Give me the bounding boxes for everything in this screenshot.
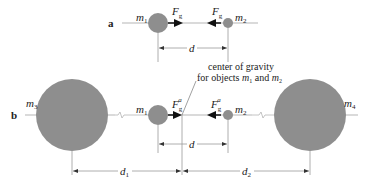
label-force-2: Fg: [211, 5, 223, 20]
mass-m1: [148, 105, 168, 125]
label-force-1: Fga: [171, 96, 183, 113]
label-m2: m2: [235, 103, 247, 117]
panel-a-label: a: [108, 17, 114, 29]
mass-m3: [36, 79, 108, 151]
label-m3: m3: [26, 97, 38, 111]
break-mark-right: [252, 112, 275, 118]
annotation-line-2: for objects m1 and m2: [197, 72, 282, 84]
center-of-gravity-leader: [182, 81, 196, 115]
panel-b-label: b: [11, 109, 17, 121]
mass-m1: [148, 13, 168, 33]
annotation-line-1: center of gravity: [208, 61, 274, 72]
gravity-diagram: a m1 m2 Fg Fg d b: [0, 0, 370, 189]
label-d: d: [189, 138, 195, 150]
label-m1: m1: [136, 103, 148, 117]
force-arrow-right: [168, 19, 183, 27]
mass-m4: [274, 79, 346, 151]
label-m1: m1: [136, 11, 148, 25]
label-m4: m4: [344, 97, 356, 111]
label-d: d: [189, 42, 195, 54]
force-arrow-left: [207, 19, 221, 27]
mass-m2: [223, 110, 233, 120]
panel-b: b center of gravity for objects m1 and m…: [11, 61, 358, 179]
label-m2: m2: [235, 11, 247, 25]
label-force-1: Fg: [171, 5, 183, 20]
mass-m2: [223, 18, 233, 28]
label-force-2: Fga: [210, 96, 222, 113]
panel-a: a m1 m2 Fg Fg d: [108, 5, 258, 62]
